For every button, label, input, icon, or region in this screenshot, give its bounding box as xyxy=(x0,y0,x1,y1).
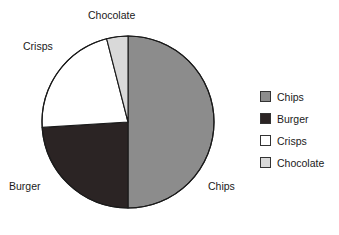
legend-swatch-crisps xyxy=(260,135,271,146)
pie-chart-figure: Chocolate Crisps Burger Chips Chips Burg… xyxy=(0,0,339,235)
legend-item-crisps: Crisps xyxy=(260,132,338,149)
slice-label-crisps: Crisps xyxy=(23,40,53,52)
legend-label-chocolate: Chocolate xyxy=(277,157,324,169)
pie-slice-chips xyxy=(128,36,214,208)
legend-swatch-burger xyxy=(260,113,271,124)
legend-swatch-chips xyxy=(260,91,271,102)
legend-item-chips: Chips xyxy=(260,88,338,105)
slice-label-burger: Burger xyxy=(9,180,41,192)
slice-label-chips: Chips xyxy=(208,180,235,192)
slice-label-chocolate: Chocolate xyxy=(88,9,135,21)
chart-legend: Chips Burger Crisps Chocolate xyxy=(260,88,338,171)
pie-slice-burger xyxy=(42,122,128,208)
legend-swatch-chocolate xyxy=(260,157,271,168)
legend-item-burger: Burger xyxy=(260,110,338,127)
pie-slice-group xyxy=(42,36,214,208)
legend-label-chips: Chips xyxy=(277,91,304,103)
legend-item-chocolate: Chocolate xyxy=(260,154,338,171)
legend-label-burger: Burger xyxy=(277,113,309,125)
legend-label-crisps: Crisps xyxy=(277,135,307,147)
